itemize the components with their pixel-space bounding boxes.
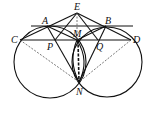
label-B: B: [105, 15, 111, 26]
label-C: C: [11, 34, 18, 45]
label-E: E: [73, 1, 80, 12]
dashed-DN: [79, 40, 131, 82]
geometry-diagram: E A B C D M P Q N: [0, 0, 148, 114]
dashed-MN: [78, 40, 79, 82]
segment-BM: [77, 26, 106, 40]
label-D: D: [132, 34, 141, 45]
label-N: N: [75, 86, 84, 97]
label-Q: Q: [96, 41, 104, 52]
label-P: P: [46, 41, 53, 52]
label-M: M: [72, 28, 82, 39]
diagram-canvas: E A B C D M P Q N: [0, 0, 148, 114]
label-A: A: [41, 15, 49, 26]
